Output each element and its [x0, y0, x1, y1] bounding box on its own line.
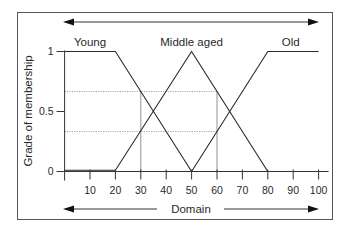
series-label-young: Young: [74, 36, 106, 48]
y-tick-label: 0.5: [39, 105, 54, 117]
x-tick-label: 100: [310, 184, 328, 196]
x-tick-label: 30: [135, 184, 147, 196]
y-tick-label: 0: [48, 165, 54, 177]
series-line-young: [65, 52, 192, 172]
series-line-old: [192, 52, 319, 172]
axes: [62, 51, 329, 181]
bottom-domain-arrow: Domain: [63, 203, 319, 215]
series-line-middle-aged: [65, 52, 268, 172]
bottom-arrow-left-head: [63, 206, 74, 213]
series-labels: YoungMiddle agedOld: [74, 36, 300, 48]
x-tick-label: 90: [287, 184, 299, 196]
y-axis-title: Grade of membership: [22, 55, 34, 166]
y-ticks: 00.51: [39, 45, 65, 177]
x-tick-label: 40: [160, 184, 172, 196]
series-label-old: Old: [282, 36, 300, 48]
series-label-middle-aged: Middle aged: [160, 36, 223, 48]
x-tick-label: 20: [110, 184, 122, 196]
x-tick-label: 80: [262, 184, 274, 196]
fuzzy-membership-chart: YoungMiddle agedOld 10203040506070809010…: [0, 0, 347, 232]
top-arrow-left-head: [63, 19, 74, 26]
series-lines: [65, 52, 319, 172]
x-axis-title: Domain: [171, 203, 211, 215]
y-tick-label: 1: [48, 45, 54, 57]
bottom-arrow-right-head: [308, 206, 319, 213]
x-tick-label: 10: [84, 184, 96, 196]
x-tick-label: 70: [237, 184, 249, 196]
top-arrow-right-head: [308, 19, 319, 26]
x-ticks: 102030405060708090100: [84, 170, 327, 196]
x-tick-label: 60: [211, 184, 223, 196]
top-domain-arrow: [63, 19, 319, 26]
x-tick-label: 50: [186, 184, 198, 196]
